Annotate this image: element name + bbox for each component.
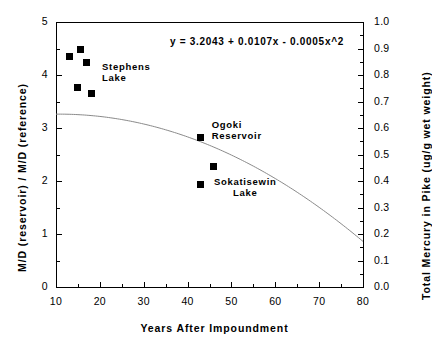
x-tick-major-30 (144, 282, 145, 287)
sokatisewin-lake-label-line2: Lake (214, 187, 277, 198)
data-point-6 (197, 134, 204, 141)
y-tick-right-major-0.7 (358, 102, 364, 103)
y-tick-right-major-0.3 (358, 208, 364, 209)
y-ticklabel-left-4: 4 (22, 68, 48, 80)
x-ticklabel-80: 80 (343, 295, 383, 307)
y-tick-right-major-0.8 (358, 75, 364, 76)
ogoki-reservoir-label: OgokiReservoir (212, 119, 262, 141)
y-tick-right-major-0.4 (358, 181, 364, 182)
data-point-1 (66, 53, 73, 60)
y-ticklabel-right-0.9: 0.9 (374, 42, 404, 54)
ogoki-reservoir-label-line1: Ogoki (212, 119, 262, 130)
y-ticklabel-right-0.1: 0.1 (374, 254, 404, 266)
x-ticklabel-30: 30 (124, 295, 164, 307)
y-tick-right-minor (360, 115, 364, 116)
y-tick-right-major-0.5 (358, 155, 364, 156)
x-tick-minor-65 (297, 284, 298, 287)
y-axis-right-title: Total Mercury in Pike (ug/g wet weight) (420, 71, 432, 300)
stephens-lake-label-line1: Stephens (102, 61, 150, 72)
y-ticklabel-right-0.5: 0.5 (374, 148, 404, 160)
y-tick-right-minor (360, 35, 364, 36)
y-tick-left-major-3 (56, 128, 62, 129)
y-ticklabel-right-0.2: 0.2 (374, 227, 404, 239)
y-tick-left-minor-3.5 (56, 102, 60, 103)
sokatisewin-lake-label: SokatisewinLake (214, 176, 277, 198)
y-tick-right-major-0.6 (358, 128, 364, 129)
y-tick-right-minor (360, 194, 364, 195)
x-ticklabel-60: 60 (255, 295, 295, 307)
y-ticklabel-right-0.6: 0.6 (374, 121, 404, 133)
y-ticklabel-left-5: 5 (22, 15, 48, 27)
sokatisewin-lake-label-line1: Sokatisewin (214, 176, 277, 187)
y-axis-left-title: M/D (reservoir) / M/D (reference) (16, 83, 28, 272)
y-tick-left-major-1 (56, 234, 62, 235)
y-tick-right-major-0.2 (358, 234, 364, 235)
y-tick-right-minor (360, 88, 364, 89)
y-tick-right-minor (360, 168, 364, 169)
y-tick-right-minor (360, 141, 364, 142)
y-tick-right-minor (360, 221, 364, 222)
data-point-8 (197, 181, 204, 188)
x-tick-major-60 (275, 282, 276, 287)
x-tick-minor-45 (210, 284, 211, 287)
data-point-7 (210, 163, 217, 170)
y-tick-left-minor-2.5 (56, 155, 60, 156)
y-tick-left-minor-0.5 (56, 261, 60, 262)
y-ticklabel-right-0.8: 0.8 (374, 68, 404, 80)
x-tick-minor-55 (253, 284, 254, 287)
y-tick-right-minor (360, 247, 364, 248)
y-tick-left-major-2 (56, 181, 62, 182)
y-ticklabel-right-0.7: 0.7 (374, 95, 404, 107)
x-tick-minor-35 (166, 284, 167, 287)
stephens-lake-label: StephensLake (102, 61, 150, 83)
y-ticklabel-left-0: 0 (22, 280, 48, 292)
data-point-2 (77, 46, 84, 53)
data-point-4 (74, 84, 81, 91)
y-tick-right-major-0.0 (358, 287, 364, 288)
y-tick-right-minor (360, 62, 364, 63)
y-tick-right-minor (360, 274, 364, 275)
y-ticklabel-right-1.0: 1.0 (374, 15, 404, 27)
y-tick-left-minor-1.5 (56, 208, 60, 209)
y-tick-left-major-5 (56, 22, 62, 23)
y-ticklabel-right-0.0: 0.0 (374, 280, 404, 292)
x-ticklabel-70: 70 (299, 295, 339, 307)
y-tick-left-minor-4.5 (56, 49, 60, 50)
y-tick-right-major-0.1 (358, 261, 364, 262)
x-ticklabel-40: 40 (168, 295, 208, 307)
stephens-lake-label-line2: Lake (102, 72, 150, 83)
y-tick-right-major-1.0 (358, 22, 364, 23)
x-tick-major-20 (100, 282, 101, 287)
data-point-5 (88, 90, 95, 97)
fit-equation: y = 3.2043 + 0.0107x - 0.0005x^2 (170, 36, 344, 47)
x-tick-minor-25 (122, 284, 123, 287)
x-tick-minor-15 (78, 284, 79, 287)
x-ticklabel-20: 20 (80, 295, 120, 307)
x-ticklabel-50: 50 (211, 295, 251, 307)
y-ticklabel-right-0.3: 0.3 (374, 201, 404, 213)
x-tick-major-50 (231, 282, 232, 287)
x-axis-title: Years After Impoundment (0, 322, 429, 334)
y-ticklabel-right-0.4: 0.4 (374, 174, 404, 186)
y-tick-left-major-4 (56, 75, 62, 76)
x-tick-major-40 (188, 282, 189, 287)
y-tick-left-major-0 (56, 287, 62, 288)
x-tick-major-70 (319, 282, 320, 287)
x-tick-minor-75 (341, 284, 342, 287)
data-point-3 (83, 59, 90, 66)
x-ticklabel-10: 10 (36, 295, 76, 307)
ogoki-reservoir-label-line2: Reservoir (212, 130, 262, 141)
y-tick-right-major-0.9 (358, 49, 364, 50)
